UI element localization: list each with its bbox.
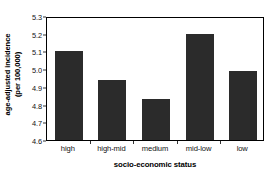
- y-axis-tick-label: 5.3: [24, 13, 42, 22]
- y-axis-tick-label: 4.9: [24, 83, 42, 92]
- plot-area: [46, 17, 264, 141]
- x-axis-tick-label: low: [237, 144, 248, 153]
- bar[interactable]: [186, 34, 214, 140]
- x-axis-tick-label: high: [61, 144, 75, 153]
- y-axis-tick-label: 5.2: [24, 30, 42, 39]
- y-axis-tick-label: 4.8: [24, 101, 42, 110]
- bar[interactable]: [55, 51, 83, 140]
- y-axis-tick-label: 4.6: [24, 137, 42, 146]
- y-axis-title: age-adjusted incidence (per 100,000): [0, 0, 26, 148]
- y-axis-title-line-1: age-adjusted incidence: [4, 33, 13, 115]
- bar-slot: [178, 18, 222, 140]
- y-axis-tick-label: 5.0: [24, 66, 42, 75]
- y-axis-tick-label: 4.7: [24, 119, 42, 128]
- bar-slot: [47, 18, 91, 140]
- x-axis-tick-label: mid-low: [186, 144, 211, 153]
- bar-slot: [91, 18, 135, 140]
- y-axis-title-line-2: (per 100,000): [13, 51, 22, 96]
- bar-chart-figure: age-adjusted incidence (per 100,000) 5.3…: [0, 0, 276, 181]
- bar[interactable]: [229, 71, 257, 140]
- y-axis-tick-labels: 5.35.25.15.04.94.84.74.6: [24, 17, 42, 141]
- y-axis-title-text: age-adjusted incidence (per 100,000): [4, 33, 23, 115]
- x-axis-tick-label: high-mid: [97, 144, 125, 153]
- x-axis-title: socio-economic status: [46, 160, 264, 169]
- bar-series: [47, 18, 263, 140]
- y-axis-tick-label: 5.1: [24, 48, 42, 57]
- bar[interactable]: [142, 99, 170, 140]
- x-axis-tick-labels: highhigh-midmediummid-lowlow: [46, 144, 264, 157]
- x-axis-tick-label: medium: [142, 144, 168, 153]
- bar-slot: [134, 18, 178, 140]
- bar[interactable]: [98, 80, 126, 140]
- bar-slot: [221, 18, 265, 140]
